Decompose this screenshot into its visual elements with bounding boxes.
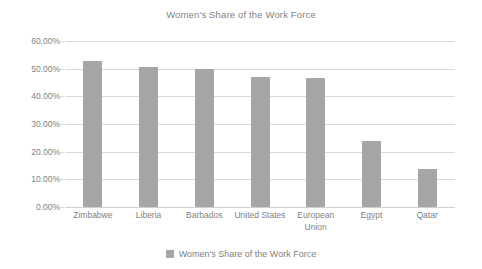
bar-liberia[interactable] <box>139 67 158 207</box>
gridline <box>65 69 455 70</box>
legend-label: Women's Share of the Work Force <box>179 249 316 259</box>
legend-swatch-icon <box>166 250 174 258</box>
y-axis: 0.00%10.00%20.00%30.00%40.00%50.00%60.00… <box>0 41 60 207</box>
plot-area <box>65 41 455 207</box>
x-axis-tick-label-line: Zimbabwe <box>63 210 123 222</box>
y-axis-tick-mark <box>60 152 64 153</box>
bar-european-union[interactable] <box>306 78 325 207</box>
x-axis-tick-label-line: Barbados <box>174 210 234 222</box>
y-axis-tick-label: 10.00% <box>2 174 60 184</box>
bar-barbados[interactable] <box>195 69 214 207</box>
bar-qatar[interactable] <box>418 169 437 207</box>
y-axis-tick-label: 50.00% <box>2 64 60 74</box>
x-axis-tick-label-line: European <box>286 210 346 222</box>
x-axis-tick-label-line: Egypt <box>341 210 401 222</box>
bar-united-states[interactable] <box>251 77 270 207</box>
x-axis-tick-label: United States <box>230 210 290 222</box>
x-axis-tick-label: Zimbabwe <box>63 210 123 222</box>
x-axis-tick-label: Barbados <box>174 210 234 222</box>
y-axis-tick-mark <box>60 96 64 97</box>
y-axis-tick-mark <box>60 179 64 180</box>
y-axis-tick-label: 30.00% <box>2 119 60 129</box>
x-axis: ZimbabweLiberiaBarbadosUnited StatesEuro… <box>65 210 455 242</box>
y-axis-tick-mark <box>60 41 64 42</box>
x-axis-tick-label: Liberia <box>119 210 179 222</box>
chart-legend: Women's Share of the Work Force <box>0 249 482 259</box>
x-axis-tick-label-line: United States <box>230 210 290 222</box>
x-axis-tick-label-line: Qatar <box>397 210 457 222</box>
chart-container: Women's Share of the Work Force 0.00%10.… <box>0 0 482 269</box>
y-axis-tick-label: 60.00% <box>2 36 60 46</box>
x-axis-tick-label-line: Liberia <box>119 210 179 222</box>
bar-egypt[interactable] <box>362 141 381 207</box>
bar-zimbabwe[interactable] <box>83 61 102 207</box>
y-axis-tick-label: 20.00% <box>2 147 60 157</box>
y-axis-tick-mark <box>60 207 64 208</box>
y-axis-tick-label: 0.00% <box>2 202 60 212</box>
y-axis-tick-mark <box>60 124 64 125</box>
gridline <box>65 41 455 42</box>
chart-title: Women's Share of the Work Force <box>0 9 482 20</box>
y-axis-tick-label: 40.00% <box>2 91 60 101</box>
x-axis-tick-label-line: Union <box>286 222 346 234</box>
y-axis-tick-mark <box>60 69 64 70</box>
x-axis-tick-label: Egypt <box>341 210 401 222</box>
x-axis-tick-label: EuropeanUnion <box>286 210 346 233</box>
x-axis-tick-label: Qatar <box>397 210 457 222</box>
gridline <box>65 207 455 208</box>
